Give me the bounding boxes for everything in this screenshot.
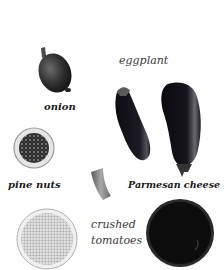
rice-bowl-image [16, 208, 78, 270]
onion-label: onion [44, 102, 76, 112]
crushed-tomatoes-label-line2: tomatoes [91, 235, 142, 246]
parmesan-label: Parmesan cheese [128, 180, 220, 190]
pine-nuts-label: pine nuts [8, 180, 61, 190]
pine-nuts-image [13, 127, 55, 169]
crushed-tomatoes-bowl-image [145, 198, 215, 268]
parmesan-wedge-image [89, 166, 113, 202]
crushed-tomatoes-label-line1: crushed [91, 219, 136, 230]
onion-image [34, 46, 78, 96]
eggplant-small-image [112, 84, 154, 164]
eggplant-large-image [158, 80, 206, 178]
eggplant-label: eggplant [119, 55, 168, 66]
